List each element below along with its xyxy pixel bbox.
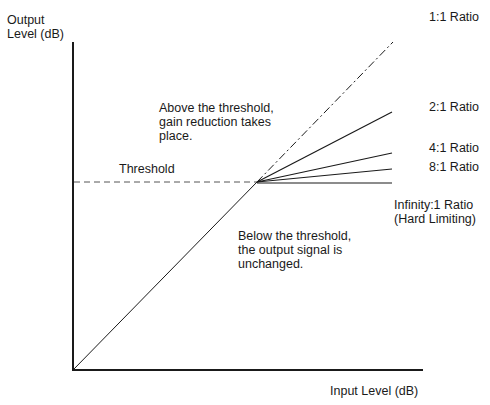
ratio-label-1-1: 1:1 Ratio <box>429 10 479 24</box>
y-axis-label: Output Level (dB) <box>7 13 64 41</box>
ratio-label-infinity: Infinity:1 Ratio (Hard Limiting) <box>394 198 476 226</box>
annotation-below-threshold: Below the threshold, the output signal i… <box>238 229 351 271</box>
ratio-1-1-line <box>257 42 393 182</box>
unity-line-below-threshold <box>73 182 257 370</box>
ratio-label-8-1: 8:1 Ratio <box>429 160 479 174</box>
annotation-above-threshold: Above the threshold, gain reduction take… <box>159 101 274 143</box>
threshold-label: Threshold <box>119 162 175 176</box>
ratio-4-1-line <box>257 153 392 182</box>
ratio-label-4-1: 4:1 Ratio <box>429 141 479 155</box>
x-axis-label: Input Level (dB) <box>330 384 418 398</box>
ratio-label-2-1: 2:1 Ratio <box>429 100 479 114</box>
